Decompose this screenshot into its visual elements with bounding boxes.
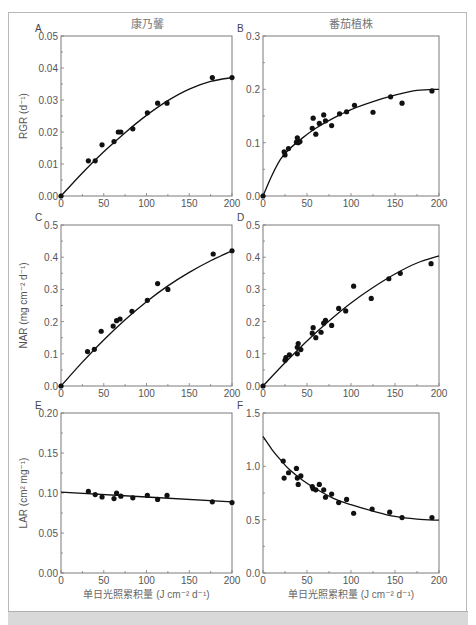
data-point bbox=[318, 330, 323, 335]
y-tick-label: 0.03 bbox=[39, 95, 59, 106]
data-point bbox=[343, 308, 348, 313]
y-tick-label: 0.1 bbox=[44, 349, 58, 360]
panel-e: 0501001502000.000.050.100.150.20ELAR (cm… bbox=[18, 400, 241, 600]
x-tick-label: 50 bbox=[301, 575, 313, 586]
data-point bbox=[210, 499, 215, 504]
data-point bbox=[86, 489, 91, 494]
data-point bbox=[155, 497, 160, 502]
data-point bbox=[351, 511, 356, 516]
x-tick-label: 100 bbox=[138, 388, 155, 399]
data-point bbox=[317, 482, 322, 487]
data-point bbox=[310, 126, 315, 131]
data-point bbox=[294, 466, 299, 471]
data-point bbox=[155, 281, 160, 286]
panel-letter: A bbox=[35, 23, 42, 34]
data-point bbox=[282, 475, 287, 480]
panel-letter: D bbox=[237, 212, 244, 223]
data-point bbox=[130, 495, 135, 500]
data-point bbox=[164, 493, 169, 498]
data-point bbox=[429, 515, 434, 520]
data-point bbox=[428, 261, 433, 266]
x-tick-label: 50 bbox=[98, 388, 110, 399]
data-point bbox=[286, 146, 291, 151]
x-tick-label: 150 bbox=[181, 575, 198, 586]
panel-a: 0501001502000.000.010.020.030.040.05ARGR… bbox=[18, 23, 241, 209]
y-tick-label: 0.10 bbox=[39, 488, 59, 499]
data-point bbox=[337, 111, 342, 116]
data-point bbox=[429, 88, 434, 93]
data-point bbox=[313, 487, 318, 492]
x-tick-label: 150 bbox=[387, 198, 404, 209]
x-tick-label: 50 bbox=[301, 198, 313, 209]
y-tick-label: 0.01 bbox=[39, 159, 59, 170]
data-point bbox=[282, 152, 287, 157]
data-point bbox=[130, 126, 135, 131]
data-point bbox=[129, 309, 134, 314]
data-point bbox=[344, 497, 349, 502]
data-point bbox=[117, 316, 122, 321]
y-tick-label: 0.0 bbox=[246, 381, 260, 392]
column-title-tomato: 番茄植株 bbox=[329, 17, 373, 31]
data-point bbox=[370, 506, 375, 511]
x-tick-label: 150 bbox=[387, 388, 404, 399]
y-tick-label: 0.02 bbox=[39, 127, 59, 138]
data-point bbox=[164, 101, 169, 106]
plot-area bbox=[263, 225, 439, 386]
data-point bbox=[93, 158, 98, 163]
x-tick-label: 200 bbox=[224, 198, 241, 209]
y-tick-label: 0.4 bbox=[246, 252, 260, 263]
data-point bbox=[58, 383, 63, 388]
y-tick-label: 0.0 bbox=[246, 191, 260, 202]
data-point bbox=[111, 139, 116, 144]
y-tick-label: 0.4 bbox=[44, 252, 58, 263]
data-point bbox=[296, 482, 301, 487]
x-tick-label: 0 bbox=[260, 575, 266, 586]
data-point bbox=[313, 335, 318, 340]
y-tick-label: 0.0 bbox=[246, 568, 260, 579]
x-tick-label: 50 bbox=[98, 198, 110, 209]
data-point bbox=[296, 341, 301, 346]
data-point bbox=[388, 94, 393, 99]
x-tick-label: 100 bbox=[138, 575, 155, 586]
plot-area bbox=[263, 413, 439, 573]
data-point bbox=[313, 132, 318, 137]
y-tick-label: 1.0 bbox=[246, 461, 260, 472]
data-point bbox=[287, 352, 292, 357]
data-point bbox=[210, 75, 215, 80]
data-point bbox=[352, 103, 357, 108]
panel-d: 0501001502000.00.10.20.30.40.5D bbox=[237, 212, 448, 399]
data-point bbox=[329, 123, 334, 128]
panel-letter: B bbox=[237, 23, 244, 34]
panel-letter: E bbox=[35, 400, 42, 411]
data-point bbox=[298, 347, 303, 352]
x-tick-label: 50 bbox=[98, 575, 110, 586]
y-tick-label: 0.5 bbox=[246, 515, 260, 526]
x-tick-label: 50 bbox=[301, 388, 313, 399]
data-point bbox=[145, 493, 150, 498]
x-tick-label: 150 bbox=[181, 388, 198, 399]
data-point bbox=[387, 510, 392, 515]
y-tick-label: 1.5 bbox=[246, 408, 260, 419]
data-point bbox=[298, 473, 303, 478]
data-point bbox=[111, 324, 116, 329]
x-tick-label: 100 bbox=[343, 388, 360, 399]
x-tick-label: 150 bbox=[181, 198, 198, 209]
y-axis-label: RGR (d⁻¹) bbox=[18, 93, 29, 139]
data-point bbox=[399, 101, 404, 106]
data-point bbox=[229, 75, 234, 80]
y-tick-label: 0.3 bbox=[44, 284, 58, 295]
data-point bbox=[229, 500, 234, 505]
data-point bbox=[329, 323, 334, 328]
data-point bbox=[311, 116, 316, 121]
y-tick-label: 0.1 bbox=[246, 138, 260, 149]
x-tick-label: 0 bbox=[58, 575, 64, 586]
data-point bbox=[286, 470, 291, 475]
data-point bbox=[114, 490, 119, 495]
fit-curve bbox=[61, 251, 232, 386]
data-point bbox=[99, 142, 104, 147]
y-tick-label: 0.0 bbox=[44, 381, 58, 392]
data-point bbox=[260, 383, 265, 388]
y-tick-label: 0.3 bbox=[246, 284, 260, 295]
y-tick-label: 0.2 bbox=[44, 317, 58, 328]
x-tick-label: 200 bbox=[224, 575, 241, 586]
